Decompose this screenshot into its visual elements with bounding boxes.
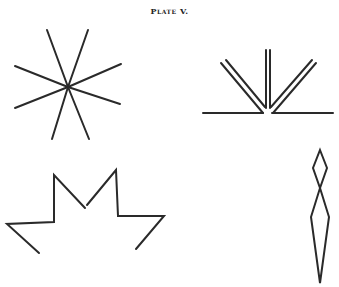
fan-figure (203, 50, 333, 113)
crown-figure (7, 170, 164, 253)
spindle-figure (311, 150, 329, 283)
star-figure (15, 30, 121, 139)
plate-figures (0, 0, 339, 287)
